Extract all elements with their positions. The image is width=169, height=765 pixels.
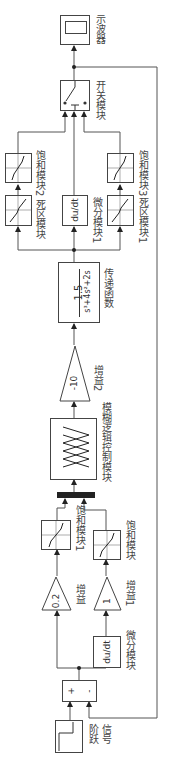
- derivative-label: 微分模块: [123, 630, 135, 670]
- derivative-block-1[interactable]: du/dt: [62, 195, 88, 226]
- scope-block[interactable]: [60, 15, 90, 45]
- saturation-icon: [42, 521, 70, 549]
- deadzone-label-1: 死区模块1: [136, 197, 148, 243]
- fuzzy-label: 模糊逻辑控制模块: [99, 402, 111, 482]
- scope-label: 示波器: [93, 14, 105, 44]
- gain-value-1: 1: [102, 585, 112, 617]
- gain-label-1: 增益1: [123, 580, 135, 606]
- gain-label: 增益: [73, 584, 85, 604]
- saturation-block-2[interactable]: [5, 153, 32, 183]
- gain-value: 0.2: [51, 585, 61, 617]
- deadzone-icon: [6, 196, 31, 225]
- saturation-label-3: 饱和模块3: [136, 150, 148, 196]
- saturation-icon: [108, 154, 133, 182]
- saturation-block-1[interactable]: [41, 520, 71, 550]
- transfer-function-block[interactable]: 1.5 s³+4s²+2s: [58, 262, 100, 323]
- saturation-label: 饱和模块: [123, 520, 135, 560]
- step-label-line1: 阶跃: [86, 724, 98, 744]
- transfer-function-label: 传递函数: [101, 268, 113, 308]
- gain-label-2: 增益2: [91, 365, 103, 391]
- sum-plus-sign: +: [66, 687, 76, 695]
- saturation-icon: [6, 154, 31, 182]
- deadzone-block[interactable]: [5, 195, 32, 226]
- derivative-expr: du/dt: [102, 637, 112, 667]
- sum-block[interactable]: + -: [62, 680, 97, 702]
- step-label-line2: 信号: [99, 724, 111, 744]
- saturation-icon: [94, 531, 120, 559]
- sum-minus-sign: -: [84, 689, 94, 692]
- mux-block[interactable]: [57, 492, 95, 498]
- saturation-label-1: 饱和模块1: [73, 505, 85, 551]
- tf-denominator: s³+4s²+2s: [83, 262, 92, 322]
- saturation-label-2: 饱和模块2: [33, 150, 45, 196]
- saturation-block-3[interactable]: [107, 153, 134, 183]
- step-icon: [56, 721, 82, 752]
- step-block[interactable]: [55, 720, 83, 753]
- gain-value-2: -10: [69, 366, 79, 400]
- deadzone-icon: [108, 196, 133, 225]
- fuzzy-controller-block[interactable]: [50, 418, 97, 480]
- derivative-block[interactable]: du/dt: [93, 636, 121, 668]
- deadzone-label: 死区模块: [33, 199, 45, 239]
- tf-fraction-bar: [79, 269, 80, 317]
- switch-label: 开关模块: [93, 80, 105, 120]
- scope-screen-icon: [65, 21, 87, 34]
- deadzone-block-1[interactable]: [107, 195, 134, 226]
- fuzzy-membership-icon: [51, 419, 96, 479]
- switch-block[interactable]: [60, 80, 90, 111]
- derivative-label-1: 微分模块1: [90, 197, 102, 243]
- switch-icon: [61, 81, 89, 110]
- derivative-expr-1: du/dt: [70, 195, 80, 225]
- saturation-block[interactable]: [93, 530, 121, 560]
